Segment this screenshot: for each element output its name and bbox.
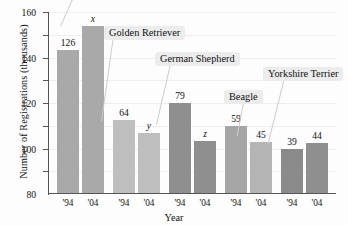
bar-value-label: 39	[287, 136, 297, 147]
bar-chart-figure: Number of Registrations (thousands) Year…	[0, 0, 348, 225]
bar-value-label: 79	[175, 90, 185, 101]
y-axis-tick: 80	[43, 103, 49, 104]
x-axis-tick-label: '94	[63, 198, 74, 208]
x-axis-tick-label: '94	[119, 198, 130, 208]
bar	[138, 133, 160, 193]
bar-value-label: z	[203, 128, 207, 139]
y-axis-tick: 20	[43, 171, 49, 172]
bar-value-label: y	[147, 120, 151, 131]
x-axis-tick-label: '04	[144, 198, 155, 208]
callout-yorkshire-terrier: Yorkshire Terrier	[263, 67, 343, 81]
y-axis-tick-label: 100	[22, 143, 36, 154]
x-axis-tick-label: '94	[231, 198, 242, 208]
bar-value-label: 45	[256, 129, 266, 140]
x-axis-tick-label: '04	[200, 198, 211, 208]
x-axis-tick-label: '04	[256, 198, 267, 208]
x-axis-tick-label: '94	[287, 198, 298, 208]
bar	[82, 26, 104, 193]
callout-german-shepherd: German Shepherd	[155, 52, 240, 66]
callout-beagle: Beagle	[224, 90, 263, 104]
y-axis-tick: 100	[43, 80, 49, 81]
bar	[250, 142, 272, 193]
bar	[169, 103, 191, 193]
bar-value-label: 64	[119, 107, 129, 118]
bar	[57, 50, 79, 193]
y-axis-tick-label: 120	[22, 98, 36, 109]
bar	[113, 120, 135, 193]
y-axis-tick: 40	[43, 149, 49, 150]
bar-value-label: 44	[312, 130, 322, 141]
bar-value-label: x	[91, 13, 95, 24]
x-axis-tick-label: '94	[175, 198, 186, 208]
bar-value-label: 126	[61, 37, 75, 48]
y-axis-tick: 120	[43, 58, 49, 59]
callout-golden-retriever: Golden Retriever	[104, 26, 185, 40]
x-axis-tick-label: '04	[88, 198, 99, 208]
bar	[281, 149, 303, 193]
y-axis-tick-label: 140	[22, 52, 36, 63]
bar	[306, 143, 328, 193]
plot-area: 20406080100120140160 126x64y79z59453944 …	[48, 12, 336, 194]
y-axis-tick: 160	[43, 12, 49, 13]
bar	[194, 141, 216, 193]
x-axis-tick-label: '04	[312, 198, 323, 208]
x-axis-line	[48, 193, 336, 194]
x-axis-title: Year	[0, 212, 348, 223]
y-axis-tick: 140	[43, 35, 49, 36]
y-axis-tick-label: 160	[22, 7, 36, 18]
y-axis-tick-label: 80	[26, 189, 36, 200]
y-axis-tick: 60	[43, 126, 49, 127]
